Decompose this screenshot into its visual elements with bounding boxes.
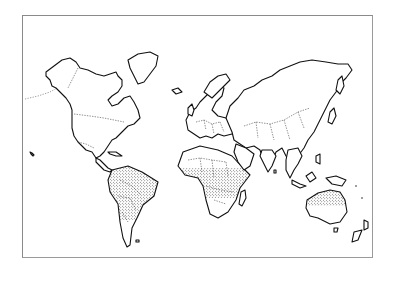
greenland <box>128 52 158 84</box>
sri-lanka <box>274 170 276 173</box>
world-map <box>0 0 395 285</box>
new-guinea <box>326 176 346 186</box>
central-america <box>30 152 122 172</box>
philippines <box>316 154 320 164</box>
new-zealand <box>352 220 368 242</box>
southeast-asia <box>286 148 302 178</box>
falklands <box>136 240 139 242</box>
iceland <box>172 88 182 94</box>
north-america <box>46 52 158 158</box>
europe <box>172 74 236 138</box>
australia <box>304 188 350 232</box>
india <box>260 150 276 172</box>
pacific-islands <box>355 185 363 199</box>
alaska-maritime-boundary <box>25 88 57 99</box>
british-isles <box>188 104 194 116</box>
arabian-peninsula <box>234 144 254 170</box>
asia <box>226 60 352 178</box>
south-america <box>100 160 170 247</box>
tasmania <box>334 228 338 232</box>
madagascar <box>239 190 246 206</box>
japan <box>328 108 336 124</box>
cuba <box>108 152 122 156</box>
hawaii <box>30 152 34 156</box>
